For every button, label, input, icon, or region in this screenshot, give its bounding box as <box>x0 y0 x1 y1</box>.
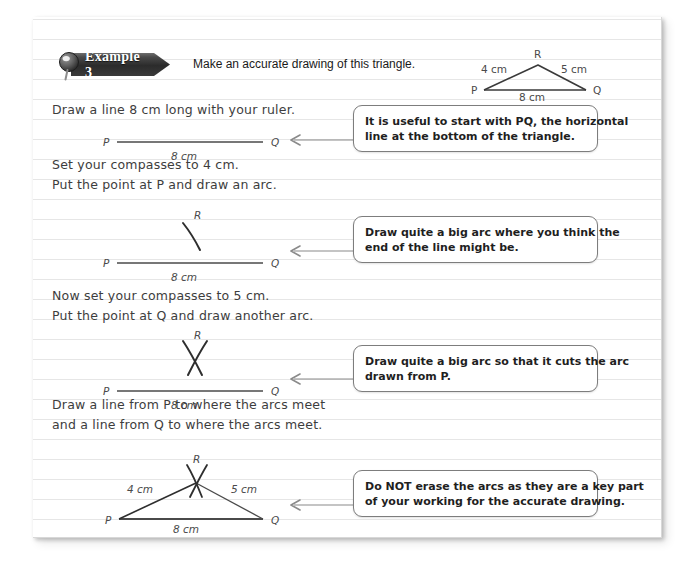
step-1-label-P: P <box>103 136 110 148</box>
step-2-callout-line-1: Draw quite a big arc where you think the <box>365 225 586 240</box>
header-side-PQ: 8 cm <box>519 91 545 103</box>
step-4-base-label: 8 cm <box>173 523 199 535</box>
header-label-R: R <box>534 48 541 60</box>
step-1-callout-line-1: It is useful to start with PQ, the horiz… <box>365 114 586 129</box>
step-4-label-P: P <box>105 514 112 526</box>
step-3-callout: Draw quite a big arc so that it cuts the… <box>353 345 598 392</box>
step-1-text: Draw a line 8 cm long with your ruler. <box>52 100 295 120</box>
step-1-label-Q: Q <box>271 136 279 148</box>
step-3-callout-line-2: drawn from P. <box>365 369 586 384</box>
step-4-line-1: Draw a line from P to where the arcs mee… <box>52 395 325 415</box>
step-4-callout-line-1: Do NOT erase the arcs as they are a key … <box>365 479 586 494</box>
step-2-label-Q: Q <box>271 257 279 269</box>
step-4-callout-line-2: of your working for the accurate drawing… <box>365 494 586 509</box>
prompt-text: Make an accurate drawing of this triangl… <box>193 57 415 71</box>
example-banner-label: Example 3 <box>71 53 170 76</box>
step-3-label-R: R <box>194 329 201 341</box>
ruled-page: Example 3 Make an accurate drawing of th… <box>33 17 662 538</box>
step-4-label-R: R <box>193 453 200 465</box>
step-3-text: Now set your compasses to 5 cm. Put the … <box>52 286 313 326</box>
step-2-text: Set your compasses to 4 cm. Put the poin… <box>52 155 277 195</box>
step-2-callout: Draw quite a big arc where you think the… <box>353 216 598 263</box>
step-4-figure: R P Q 4 cm 5 cm 8 cm <box>83 445 303 531</box>
page-content: Example 3 Make an accurate drawing of th… <box>33 17 661 537</box>
step-4-arrow <box>286 499 354 511</box>
step-4-callout: Do NOT erase the arcs as they are a key … <box>353 470 598 517</box>
step-1-callout: It is useful to start with PQ, the horiz… <box>353 105 598 152</box>
step-4-text: Draw a line from P to where the arcs mee… <box>52 395 325 435</box>
step-3-callout-line-1: Draw quite a big arc so that it cuts the… <box>365 354 586 369</box>
step-2-label-P: P <box>103 257 110 269</box>
header-triangle-figure: P Q R 4 cm 5 cm 8 cm <box>453 45 613 101</box>
header-side-PR: 4 cm <box>481 63 507 75</box>
step-3-line-2: Put the point at Q and draw another arc. <box>52 306 313 326</box>
step-2-figure: R P Q 8 cm <box>95 195 295 273</box>
step-3-figure: R P Q 8 cm <box>95 325 295 401</box>
step-2-label-R: R <box>194 209 201 221</box>
step-1-line-1: Draw a line 8 cm long with your ruler. <box>52 100 295 120</box>
step-2-line-2: Put the point at P and draw an arc. <box>52 175 277 195</box>
step-3-line-1: Now set your compasses to 5 cm. <box>52 286 313 306</box>
header-label-Q: Q <box>593 84 601 96</box>
step-2-line-1: Set your compasses to 4 cm. <box>52 155 277 175</box>
magnifier-pin-icon <box>57 51 83 81</box>
step-1-callout-line-2: line at the bottom of the triangle. <box>365 129 586 144</box>
step-1-arrow <box>286 134 354 146</box>
header-label-P: P <box>471 84 477 96</box>
step-3-arrow <box>286 373 354 385</box>
step-4-side-RQ: 5 cm <box>231 483 257 495</box>
header-side-RQ: 5 cm <box>561 63 587 75</box>
step-2-base-label: 8 cm <box>171 271 197 283</box>
step-2-callout-line-2: end of the line might be. <box>365 240 586 255</box>
step-4-line-2: and a line from Q to where the arcs meet… <box>52 415 325 435</box>
step-4-side-PR: 4 cm <box>127 483 153 495</box>
step-2-arrow <box>286 245 354 257</box>
screenshot-root: Example 3 Make an accurate drawing of th… <box>0 0 690 577</box>
step-4-label-Q: Q <box>271 514 279 526</box>
